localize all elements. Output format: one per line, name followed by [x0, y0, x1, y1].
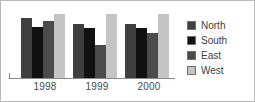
bar-2000-north — [125, 24, 136, 79]
bar-group-1998 — [19, 7, 71, 79]
legend-label-west: West — [201, 65, 224, 76]
bar-1999-south — [84, 28, 95, 79]
legend-label-south: South — [201, 35, 227, 46]
legend-swatch-north-icon — [187, 21, 196, 30]
legend-swatch-west-icon — [187, 66, 196, 75]
bar-group-1999 — [71, 7, 123, 79]
bar-1998-east — [43, 21, 54, 79]
bar-1999-west — [106, 14, 117, 79]
plot-area — [19, 7, 175, 79]
bar-2000-south — [136, 28, 147, 79]
legend-label-north: North — [201, 20, 225, 31]
x-tick-label-2000: 2000 — [123, 81, 175, 92]
x-tick-label-1998: 1998 — [19, 81, 71, 92]
bar-2000-east — [147, 33, 158, 79]
legend-item-south: South — [187, 33, 249, 48]
bar-group-2000 — [123, 7, 175, 79]
legend-swatch-south-icon — [187, 36, 196, 45]
bar-1999-north — [73, 24, 84, 79]
legend-item-north: North — [187, 18, 249, 33]
legend-label-east: East — [201, 50, 221, 61]
legend-item-west: West — [187, 63, 249, 78]
bar-chart-figure: 1998 1999 2000 North South East West — [0, 0, 255, 102]
y-axis-stub — [9, 73, 10, 79]
legend-item-east: East — [187, 48, 249, 63]
bar-2000-west — [158, 14, 169, 79]
x-axis-line — [9, 78, 175, 79]
legend: North South East West — [187, 18, 249, 78]
bar-1999-east — [95, 45, 106, 79]
bar-1998-north — [21, 18, 32, 79]
bar-1998-west — [54, 14, 65, 79]
bar-1998-south — [32, 27, 43, 79]
x-tick-label-1999: 1999 — [71, 81, 123, 92]
legend-swatch-east-icon — [187, 51, 196, 60]
